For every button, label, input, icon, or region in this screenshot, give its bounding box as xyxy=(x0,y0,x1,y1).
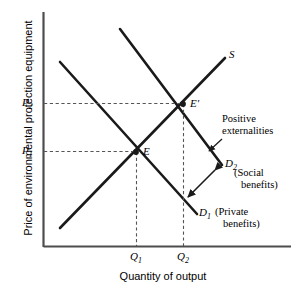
curve-label-supply: S xyxy=(229,48,235,60)
y-axis-title: Price of environmental protection equipm… xyxy=(22,13,34,243)
y-tick-p1-base: P xyxy=(22,144,29,156)
x-tick-q2-base: Q xyxy=(177,250,185,262)
x-tick-q1-base: Q xyxy=(130,250,138,262)
supply-curve xyxy=(60,58,225,228)
x-tick-label-q2: Q2 xyxy=(177,250,189,266)
curve-label-d1-paren-line1: (Private xyxy=(215,206,248,218)
y-tick-p1-sub: 1 xyxy=(29,150,33,159)
x-axis-title: Quantity of output xyxy=(68,270,258,282)
equilibrium-label-e: E xyxy=(143,145,150,157)
equilibrium-point-e-prime xyxy=(180,101,186,107)
externality-diagram-figure: Price of environmental protection equipm… xyxy=(0,0,306,290)
demand-curve-d1 xyxy=(60,62,197,214)
plot-area xyxy=(0,0,306,290)
y-tick-label-p2: P2 xyxy=(22,96,33,112)
x-tick-q1-sub: 1 xyxy=(138,256,142,265)
annotation-positive-externalities: Positive externalities xyxy=(222,113,273,137)
annotation-line-2: externalities xyxy=(222,125,273,137)
externality-gap-arrow xyxy=(188,170,215,197)
positive-externalities-pointer-arrow xyxy=(209,139,222,151)
y-tick-label-p1: P1 xyxy=(22,144,33,160)
curve-label-d1: D1 xyxy=(199,206,211,222)
curve-label-d1-base: D xyxy=(199,206,207,218)
y-tick-p2-base: P xyxy=(22,96,29,108)
curve-label-d1-sub: 1 xyxy=(207,212,211,221)
curve-label-d1-paren-line2: benefits) xyxy=(223,218,260,230)
equilibrium-label-e-prime: E' xyxy=(190,97,199,109)
x-tick-q2-sub: 2 xyxy=(185,256,189,265)
curve-label-d2-paren-line2: benefits) xyxy=(241,179,278,191)
curve-label-d2-paren-line1: (Social xyxy=(234,167,264,179)
x-tick-label-q1: Q1 xyxy=(130,250,142,266)
curve-label-d2-base: D xyxy=(225,157,233,169)
equilibrium-point-e xyxy=(133,149,139,155)
y-tick-p2-sub: 2 xyxy=(29,102,33,111)
annotation-line-1: Positive xyxy=(222,113,273,125)
